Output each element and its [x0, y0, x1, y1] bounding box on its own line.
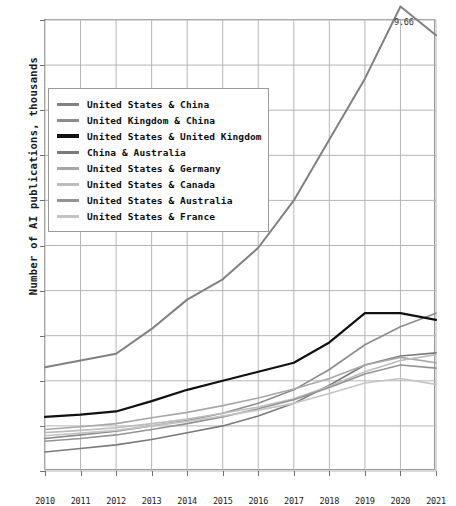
y-tick-mark	[40, 155, 45, 156]
legend-swatch-icon	[57, 167, 79, 170]
legend-item-5[interactable]: United States & Canada	[57, 176, 260, 192]
legend-swatch-icon	[57, 151, 79, 154]
legend-label: United States & Australia	[87, 195, 233, 206]
x-tick-label: 2015	[203, 496, 243, 506]
x-tick-mark	[400, 471, 401, 476]
legend-item-6[interactable]: United States & Australia	[57, 192, 260, 208]
series-line-7	[45, 379, 436, 436]
legend-swatch-icon	[57, 215, 79, 218]
y-tick-mark	[40, 20, 45, 21]
legend-label: United States & Germany	[87, 163, 221, 174]
y-tick-mark	[40, 381, 45, 382]
y-tick-mark	[40, 200, 45, 201]
x-tick-label: 2012	[96, 496, 136, 506]
legend-label: United Kingdom & China	[87, 115, 215, 126]
x-tick-label: 2013	[132, 496, 172, 506]
x-tick-label: 2019	[345, 496, 385, 506]
y-tick-mark	[40, 110, 45, 111]
legend-item-0[interactable]: United States & China	[57, 96, 260, 112]
x-tick-mark	[116, 471, 117, 476]
value-annotation: 9.66	[394, 17, 414, 27]
legend-label: United States & Canada	[87, 179, 215, 190]
x-tick-mark	[329, 471, 330, 476]
legend-label: China & Australia	[87, 147, 186, 158]
legend-label: United States & United Kingdom	[87, 131, 262, 142]
x-tick-label: 2020	[380, 496, 420, 506]
y-axis-title: Number of AI publications, thousands	[27, 26, 39, 326]
x-tick-mark	[294, 471, 295, 476]
x-tick-label: 2021	[416, 496, 456, 506]
chart-legend[interactable]: United States & ChinaUnited Kingdom & Ch…	[48, 88, 269, 232]
x-tick-mark	[152, 471, 153, 476]
legend-item-3[interactable]: China & Australia	[57, 144, 260, 160]
y-tick-mark	[40, 65, 45, 66]
plot-area: 012345678910 201020112012201320142015201…	[44, 19, 435, 470]
legend-item-4[interactable]: United States & Germany	[57, 160, 260, 176]
y-tick-mark	[40, 426, 45, 427]
x-tick-label: 2016	[238, 496, 278, 506]
x-tick-mark	[187, 471, 188, 476]
legend-swatch-icon	[57, 119, 79, 122]
x-tick-mark	[258, 471, 259, 476]
legend-swatch-icon	[57, 199, 79, 202]
legend-label: United States & China	[87, 99, 209, 110]
x-tick-label: 2017	[274, 496, 314, 506]
legend-label: United States & France	[87, 211, 215, 222]
legend-swatch-icon	[57, 134, 79, 137]
x-tick-mark	[223, 471, 224, 476]
x-tick-mark	[81, 471, 82, 476]
x-tick-label: 2010	[25, 496, 65, 506]
y-tick-mark	[40, 336, 45, 337]
legend-swatch-icon	[57, 103, 79, 106]
legend-swatch-icon	[57, 183, 79, 186]
x-tick-label: 2014	[167, 496, 207, 506]
x-tick-label: 2018	[309, 496, 349, 506]
legend-item-1[interactable]: United Kingdom & China	[57, 112, 260, 128]
x-tick-mark	[45, 471, 46, 476]
x-tick-label: 2011	[61, 496, 101, 506]
y-tick-mark	[40, 291, 45, 292]
legend-item-7[interactable]: United States & France	[57, 208, 260, 224]
y-tick-mark	[40, 246, 45, 247]
x-tick-mark	[436, 471, 437, 476]
x-tick-mark	[365, 471, 366, 476]
legend-item-2[interactable]: United States & United Kingdom	[57, 128, 260, 144]
